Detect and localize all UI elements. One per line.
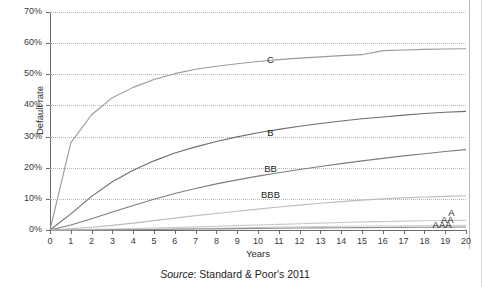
x-tick-mark <box>320 230 321 234</box>
series-label-aaa: AAA <box>433 219 452 230</box>
x-tick-mark <box>424 230 425 234</box>
series-label-c: C <box>267 54 274 65</box>
source-text: : Standard & Poor's 2011 <box>194 268 310 280</box>
default-rate-chart-figure: Default rate CBBBBBBAAAAAA 0123456789101… <box>0 0 482 287</box>
series-label-bbb: BBB <box>261 189 280 200</box>
x-tick-mark <box>133 230 134 234</box>
x-tick-label: 16 <box>378 236 388 246</box>
y-tick-mark <box>46 74 50 75</box>
x-tick-label: 20 <box>461 236 471 246</box>
y-tick-label: 50% <box>8 68 42 78</box>
y-tick-label: 40% <box>8 99 42 109</box>
x-tick-mark <box>445 230 446 234</box>
x-tick-label: 11 <box>274 236 283 246</box>
x-tick-label: 12 <box>295 236 305 246</box>
y-tick-label: 20% <box>8 162 42 172</box>
y-tick-label: 10% <box>8 193 42 203</box>
x-tick-mark <box>216 230 217 234</box>
x-tick-label: 14 <box>336 236 346 246</box>
x-tick-label: 13 <box>315 236 325 246</box>
x-tick-mark <box>196 230 197 234</box>
x-tick-label: 1 <box>68 236 73 246</box>
y-tick-mark <box>46 43 50 44</box>
y-tick-mark <box>46 230 50 231</box>
x-tick-mark <box>92 230 93 234</box>
x-tick-mark <box>383 230 384 234</box>
x-tick-mark <box>362 230 363 234</box>
source-caption: Source: Standard & Poor's 2011 <box>0 268 470 280</box>
y-tick-label: 70% <box>8 6 42 16</box>
x-tick-mark <box>154 230 155 234</box>
x-tick-label: 6 <box>172 236 177 246</box>
y-tick-label: 60% <box>8 37 42 47</box>
y-tick-label: 0% <box>8 224 42 234</box>
series-line-c <box>50 49 466 230</box>
x-tick-mark <box>258 230 259 234</box>
x-tick-mark <box>237 230 238 234</box>
page-edge-line <box>469 0 470 249</box>
x-tick-label: 8 <box>214 236 219 246</box>
x-tick-label: 19 <box>440 236 450 246</box>
x-tick-label: 18 <box>419 236 429 246</box>
series-label-b: B <box>267 127 273 138</box>
y-axis-label: Default rate <box>34 66 45 156</box>
series-line-bb <box>50 150 466 230</box>
x-tick-label: 0 <box>47 236 52 246</box>
x-tick-mark <box>175 230 176 234</box>
plot-area: CBBBBBBAAAAAA 01234567891011121314151617… <box>50 12 466 230</box>
x-tick-label: 9 <box>235 236 240 246</box>
x-tick-label: 10 <box>253 236 263 246</box>
x-tick-mark <box>112 230 113 234</box>
x-tick-label: 2 <box>89 236 94 246</box>
x-tick-mark <box>466 230 467 234</box>
x-tick-mark <box>341 230 342 234</box>
x-tick-label: 3 <box>110 236 115 246</box>
x-tick-mark <box>71 230 72 234</box>
x-axis-label: Years <box>50 248 466 259</box>
x-tick-label: 17 <box>399 236 409 246</box>
source-prefix: Source <box>160 268 193 280</box>
y-tick-mark <box>46 199 50 200</box>
x-tick-mark <box>50 230 51 234</box>
series-label-bb: BB <box>264 163 277 174</box>
x-tick-label: 5 <box>151 236 156 246</box>
y-tick-label: 30% <box>8 131 42 141</box>
x-tick-mark <box>279 230 280 234</box>
y-tick-mark <box>46 105 50 106</box>
x-tick-label: 4 <box>131 236 136 246</box>
x-tick-label: 15 <box>357 236 367 246</box>
series-curves <box>50 12 466 230</box>
y-tick-mark <box>46 168 50 169</box>
y-tick-mark <box>46 12 50 13</box>
x-tick-label: 7 <box>193 236 198 246</box>
x-tick-mark <box>404 230 405 234</box>
y-tick-mark <box>46 137 50 138</box>
x-tick-mark <box>300 230 301 234</box>
